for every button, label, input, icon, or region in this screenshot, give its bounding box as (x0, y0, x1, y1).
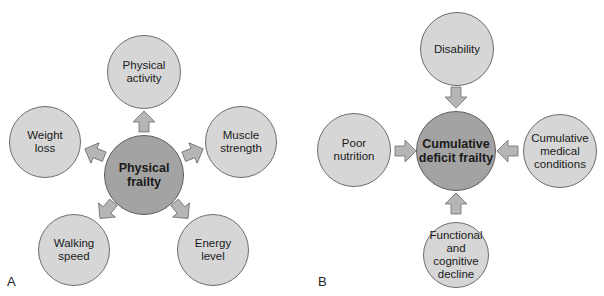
node-energy-level: Energy level (177, 214, 249, 286)
center-label: Physical frailty (114, 161, 174, 189)
node-weight-loss: Weight loss (9, 106, 81, 178)
node-muscle-strength: Muscle strength (205, 106, 277, 178)
panel-label-a: A (7, 274, 16, 289)
node-cumulative-deficit-frailty: Cumulative deficit frailty (416, 111, 496, 191)
node-functional-cognitive-decline: Functional and cognitive decline (423, 222, 489, 288)
arrow-b-left (395, 140, 416, 162)
node-label: Walking speed (52, 237, 97, 263)
node-physical-activity: Physical activity (107, 35, 181, 109)
node-label: Disability (434, 43, 480, 56)
node-cumulative-medical-conditions: Cumulative medical conditions (523, 114, 597, 188)
node-disability: Disability (420, 12, 494, 86)
node-label: Functional and cognitive decline (424, 229, 488, 281)
panel-label-b: B (318, 274, 327, 289)
arrow-b-right (497, 140, 518, 162)
arrow-a-left (81, 139, 109, 167)
node-physical-frailty: Physical frailty (104, 135, 184, 215)
arrow-a-top (133, 111, 155, 132)
node-label: Muscle strength (216, 129, 266, 155)
node-label: Cumulative medical conditions (528, 132, 592, 171)
node-label: Weight loss (25, 129, 65, 155)
node-label: Poor nutrition (329, 137, 379, 163)
arrow-b-top (445, 87, 467, 108)
center-label: Cumulative deficit frailty (418, 137, 494, 165)
node-label: Energy level (193, 237, 233, 263)
node-poor-nutrition: Poor nutrition (317, 113, 391, 187)
arrow-b-bottom (445, 193, 467, 214)
node-label: Physical activity (108, 59, 180, 85)
arrow-a-right (180, 139, 208, 167)
node-walking-speed: Walking speed (38, 214, 110, 286)
